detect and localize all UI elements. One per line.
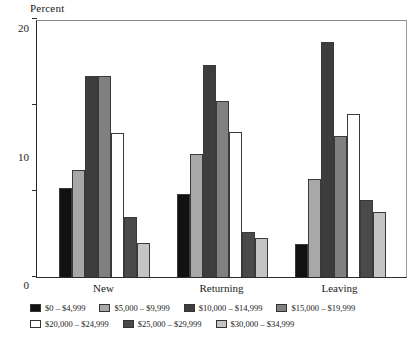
legend-swatch-icon [99,304,110,312]
legend-label: $25,000 – $29,999 [138,320,202,329]
legend-row: $0 – $4,999$5,000 – $9,999$10,000 – $14,… [30,300,418,316]
legend-item[interactable]: $20,000 – $24,999 [30,320,109,329]
legend-item[interactable]: $0 – $4,999 [30,304,85,313]
bar [177,194,190,277]
plot-area: 0102030 [36,20,407,278]
chart-legend: $0 – $4,999$5,000 – $9,999$10,000 – $14,… [30,300,418,332]
bar [190,154,203,277]
legend-swatch-icon [30,304,41,312]
legend-swatch-icon [123,320,134,328]
bar [242,232,255,277]
x-axis-label: Returning [200,282,244,294]
legend-label: $5,000 – $9,999 [114,304,169,313]
bar [308,179,321,277]
legend-item[interactable]: $10,000 – $14,999 [184,304,263,313]
legend-row: $20,000 – $24,999$25,000 – $29,999$30,00… [30,316,418,332]
legend-item[interactable]: $5,000 – $9,999 [99,304,169,313]
bar [229,132,242,277]
bar-group [295,21,386,277]
bar-group [177,21,268,277]
bar [216,101,229,277]
legend-item[interactable]: $15,000 – $19,999 [276,304,355,313]
bar [59,188,72,277]
bar [72,170,85,277]
y-axis-title: Percent [30,2,64,14]
legend-label: $30,000 – $34,999 [231,320,295,329]
bar [347,114,360,277]
legend-swatch-icon [184,304,195,312]
legend-label: $0 – $4,999 [45,304,85,313]
bar [85,76,98,277]
bar [334,136,347,277]
legend-label: $15,000 – $19,999 [291,304,355,313]
bar-group [59,21,150,277]
bar [137,243,150,277]
bar [373,212,386,277]
x-axis-label: Leaving [321,282,357,294]
bar [321,42,334,277]
bar-chart: Percent 0102030 NewReturningLeaving $0 –… [0,0,418,343]
bar-groups [37,21,406,277]
legend-swatch-icon [276,304,287,312]
y-axis-tick [32,18,37,19]
bar [360,200,373,277]
bar [255,238,268,277]
legend-swatch-icon [216,320,227,328]
legend-label: $10,000 – $14,999 [199,304,263,313]
bar [124,217,137,277]
legend-item[interactable]: $25,000 – $29,999 [123,320,202,329]
legend-item[interactable]: $30,000 – $34,999 [216,320,295,329]
x-axis-label: New [93,282,114,294]
bar [203,65,216,277]
bar [295,244,308,277]
y-axis-tick-label: 30 [18,0,29,149]
legend-swatch-icon [30,320,41,328]
bar [98,76,111,277]
legend-label: $20,000 – $24,999 [45,320,109,329]
bar [111,133,124,277]
